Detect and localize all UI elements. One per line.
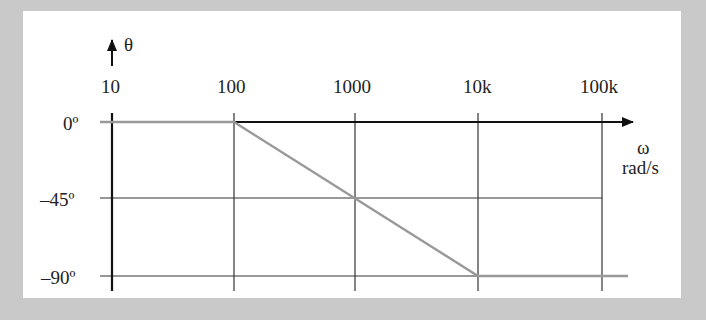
omega-label: ω	[637, 138, 650, 157]
grid-lines	[100, 113, 602, 291]
y-tick-minus90: –90º	[41, 268, 75, 287]
phase-curve	[100, 122, 628, 276]
x-tick-100: 100	[217, 77, 246, 96]
x-tick-10: 10	[101, 77, 120, 96]
theta-label: θ	[124, 35, 133, 54]
x-tick-10k: 10k	[463, 77, 492, 96]
unit-label: rad/s	[622, 158, 659, 177]
y-tick-minus45: –45º	[40, 190, 74, 209]
y-tick-0: 0º	[63, 114, 78, 133]
x-tick-1000: 1000	[333, 77, 371, 96]
x-tick-100k: 100k	[580, 77, 618, 96]
bode-phase-plot	[0, 0, 706, 320]
